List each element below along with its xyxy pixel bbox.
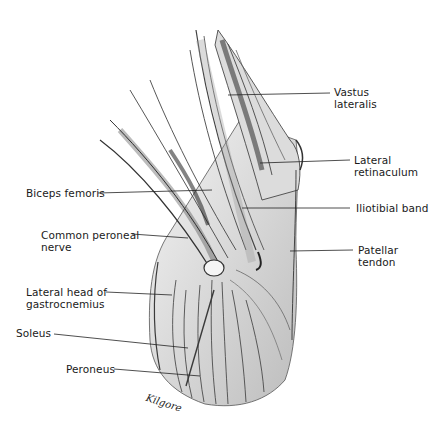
label-lateral-retinaculum-line2: retinaculum: [354, 166, 418, 178]
label-vastus-lateralis-line2: lateralis: [334, 98, 377, 110]
label-lateral-retinaculum: Lateral retinaculum: [354, 154, 418, 178]
label-lateral-retinaculum-line1: Lateral: [354, 154, 418, 166]
label-vastus-lateralis-line1: Vastus: [334, 86, 377, 98]
label-peroneus: Peroneus: [66, 363, 115, 375]
label-vastus-lateralis: Vastus lateralis: [334, 86, 377, 110]
label-common-peroneal-nerve-line2: nerve: [41, 241, 139, 253]
label-lateral-head-gastrocnemius: Lateral head of gastrocnemius: [26, 286, 107, 310]
label-lateral-head-gastrocnemius-line2: gastrocnemius: [26, 298, 107, 310]
label-iliotibial-band: Iliotibial band: [356, 202, 429, 214]
label-biceps-femoris-line1: Biceps femoris: [26, 187, 105, 199]
label-patellar-tendon-line2: tendon: [358, 256, 398, 268]
label-patellar-tendon-line1: Patellar: [358, 244, 398, 256]
label-lateral-head-gastrocnemius-line1: Lateral head of: [26, 286, 107, 298]
label-patellar-tendon: Patellar tendon: [358, 244, 398, 268]
label-peroneus-line1: Peroneus: [66, 363, 115, 375]
label-common-peroneal-nerve-line1: Common peroneal: [41, 229, 139, 241]
label-soleus: Soleus: [16, 327, 51, 339]
label-common-peroneal-nerve: Common peroneal nerve: [41, 229, 139, 253]
label-soleus-line1: Soleus: [16, 327, 51, 339]
label-biceps-femoris: Biceps femoris: [26, 187, 105, 199]
label-iliotibial-band-line1: Iliotibial band: [356, 202, 429, 214]
